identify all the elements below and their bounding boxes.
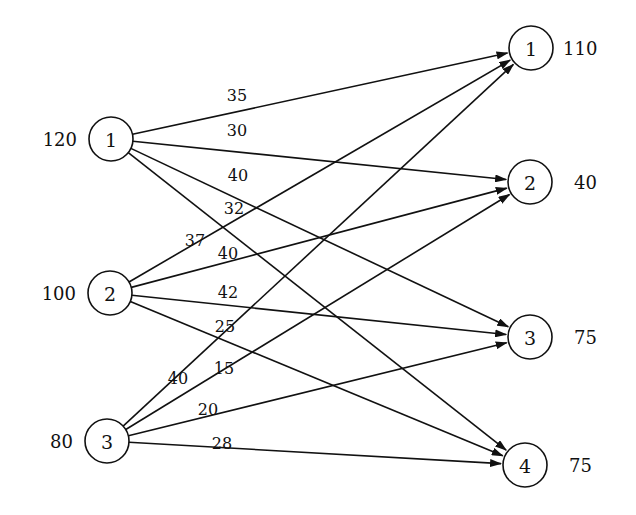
- edge-s3-d2: 15: [126, 195, 510, 430]
- edge-cost-label: 35: [227, 86, 247, 105]
- edge-cost-label: 42: [218, 283, 238, 302]
- destination-node-label: 4: [519, 455, 531, 477]
- edge-s3-d1: 40: [123, 64, 513, 426]
- edge-s3-d3: 20: [128, 343, 506, 436]
- arrow-icon: [129, 442, 501, 463]
- destination-node-label: 2: [524, 172, 536, 194]
- demand-label: 75: [569, 455, 592, 476]
- source-node-2: 2100: [42, 271, 132, 315]
- source-node-label: 3: [101, 431, 113, 453]
- edge-cost-label: 20: [198, 400, 218, 419]
- demand-label: 40: [574, 172, 597, 193]
- edges-layer: 353040323740422540152028: [123, 53, 513, 464]
- edge-s2-d3: 42: [132, 283, 506, 334]
- source-node-3: 380: [50, 419, 129, 463]
- supply-label: 120: [43, 129, 77, 150]
- edge-cost-label: 40: [228, 166, 248, 185]
- source-node-label: 1: [105, 129, 117, 151]
- destination-node-3: 375: [508, 315, 597, 359]
- edge-s3-d4: 28: [129, 434, 501, 464]
- arrow-icon: [133, 141, 506, 179]
- destination-node-1: 1110: [509, 26, 597, 70]
- edge-cost-label: 40: [168, 369, 188, 388]
- arrow-icon: [132, 295, 506, 334]
- source-node-label: 2: [104, 283, 116, 305]
- destination-node-label: 3: [524, 327, 536, 349]
- source-node-1: 1120: [43, 117, 133, 161]
- arrow-icon: [128, 343, 506, 436]
- edge-cost-label: 40: [218, 244, 238, 263]
- edge-cost-label: 37: [185, 231, 205, 250]
- supply-label: 80: [50, 431, 73, 452]
- edge-cost-label: 28: [212, 434, 232, 453]
- edge-cost-label: 15: [214, 359, 234, 378]
- nodes-layer: 112021003801110240375475: [42, 26, 598, 487]
- demand-label: 110: [563, 38, 597, 59]
- arrow-icon: [126, 195, 510, 430]
- transportation-network-diagram: 353040323740422540152028 112021003801110…: [0, 0, 636, 515]
- destination-node-4: 475: [503, 443, 592, 487]
- supply-label: 100: [42, 283, 76, 304]
- edge-cost-label: 30: [227, 121, 247, 140]
- destination-node-2: 240: [508, 160, 597, 204]
- edge-cost-label: 32: [224, 199, 244, 218]
- destination-node-label: 1: [525, 38, 537, 60]
- edge-cost-label: 25: [215, 317, 235, 336]
- demand-label: 75: [574, 327, 597, 348]
